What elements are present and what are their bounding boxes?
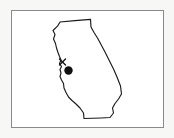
- location-dot-marker[interactable]: [64, 66, 72, 74]
- california-map-figure: California United States California Site…: [0, 0, 174, 138]
- map-canvas: [0, 0, 174, 138]
- california-outline-path: [53, 19, 122, 118]
